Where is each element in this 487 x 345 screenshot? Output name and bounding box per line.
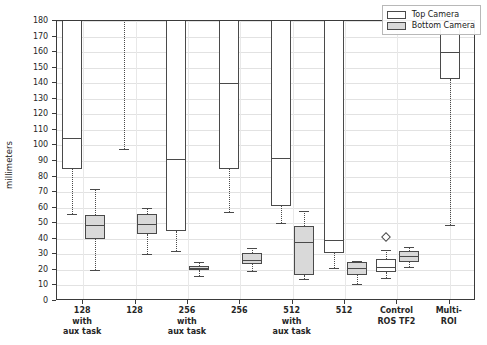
- gridline-horizontal: [57, 83, 474, 84]
- boxplot-figure: millimeters 0102030405060708090100110120…: [0, 0, 487, 345]
- legend-swatch-bottom-camera: [387, 22, 406, 30]
- y-tick-label: 140: [33, 78, 48, 87]
- gridline-horizontal: [57, 130, 474, 131]
- median-line: [137, 224, 157, 225]
- whisker-cap-upper: [90, 189, 100, 190]
- whisker-cap-lower: [90, 270, 100, 271]
- outlier-marker: [381, 232, 391, 242]
- gridline-horizontal: [57, 161, 474, 162]
- y-tick-label: 90: [38, 156, 48, 165]
- x-tick-mark: [187, 300, 188, 304]
- y-axis-label: millimeters: [4, 115, 14, 215]
- whisker-cap-lower: [224, 212, 234, 213]
- median-line: [189, 268, 209, 269]
- whisker-upper: [304, 211, 305, 227]
- x-tick-label: 128 with aux task: [63, 306, 101, 338]
- whisker-cap-lower: [194, 276, 204, 277]
- y-tick-label: 50: [38, 218, 48, 227]
- y-tick-label: 30: [38, 249, 48, 258]
- x-tick-mark: [449, 300, 450, 304]
- legend-label: Bottom Camera: [412, 21, 475, 30]
- y-tick-label: 40: [38, 233, 48, 242]
- x-tick-mark: [135, 300, 136, 304]
- median-line: [440, 52, 460, 53]
- y-tick-label: 150: [33, 62, 48, 71]
- y-axis: millimeters 0102030405060708090100110120…: [0, 0, 56, 320]
- chart-legend: Top CameraBottom Camera: [382, 5, 481, 35]
- whisker-lower: [281, 206, 282, 223]
- legend-label: Top Camera: [412, 10, 459, 19]
- whisker-cap-upper: [142, 208, 152, 209]
- whisker-cap-upper: [299, 211, 309, 212]
- gridline-horizontal: [57, 192, 474, 193]
- whisker-lower: [357, 275, 358, 284]
- gridline-horizontal: [57, 114, 474, 115]
- x-tick-label: Control ROS TF2: [377, 306, 415, 327]
- y-tick-label: 0: [43, 296, 48, 305]
- legend-swatch-top-camera: [387, 11, 406, 19]
- box-iqr: [294, 226, 314, 274]
- y-tick-label: 120: [33, 109, 48, 118]
- box-iqr: [166, 20, 186, 231]
- whisker-lower: [334, 253, 335, 268]
- y-tick-label: 80: [38, 171, 48, 180]
- box-iqr: [440, 29, 460, 79]
- y-tick-label: 100: [33, 140, 48, 149]
- y-tick-label: 110: [33, 124, 48, 133]
- whisker-lower: [147, 234, 148, 254]
- whisker-cap-lower: [171, 251, 181, 252]
- x-tick-label: Multi-ROI: [430, 306, 468, 327]
- median-line: [85, 225, 105, 226]
- gridline-horizontal: [57, 52, 474, 53]
- x-tick-label: 256 with aux task: [168, 306, 206, 338]
- median-line: [242, 260, 262, 261]
- x-tick-mark: [239, 300, 240, 304]
- x-tick-mark: [292, 300, 293, 304]
- gridline-horizontal: [57, 37, 474, 38]
- x-tick-mark: [396, 300, 397, 304]
- gridline-horizontal: [57, 270, 474, 271]
- median-line: [62, 138, 82, 139]
- whisker-cap-lower: [276, 223, 286, 224]
- box-iqr: [271, 20, 291, 206]
- y-tick-label: 60: [38, 202, 48, 211]
- box-iqr: [85, 215, 105, 238]
- whisker-upper: [95, 189, 96, 215]
- whisker-cap-lower: [404, 267, 414, 268]
- whisker-cap-lower: [352, 284, 362, 285]
- whisker-cap-upper: [404, 247, 414, 248]
- whisker-cap-upper: [194, 262, 204, 263]
- x-tick-mark: [82, 300, 83, 304]
- x-tick-mark: [344, 300, 345, 304]
- y-tick-mark: [52, 300, 56, 301]
- median-line: [294, 242, 314, 243]
- box-iqr: [62, 20, 82, 169]
- y-tick-label: 160: [33, 47, 48, 56]
- gridline-horizontal: [57, 239, 474, 240]
- median-line: [324, 240, 344, 241]
- y-tick-label: 10: [38, 280, 48, 289]
- box-iqr: [376, 259, 396, 272]
- legend-item: Top Camera: [387, 9, 475, 20]
- y-tick-label: 130: [33, 93, 48, 102]
- gridline-horizontal: [57, 68, 474, 69]
- plot-area: [56, 20, 475, 300]
- whisker-lower: [176, 231, 177, 251]
- whisker-lower: [124, 20, 125, 149]
- whisker-cap-lower: [299, 279, 309, 280]
- box-iqr: [324, 20, 344, 253]
- whisker-cap-lower: [445, 225, 455, 226]
- median-line: [219, 83, 239, 84]
- gridline-horizontal: [57, 99, 474, 100]
- x-tick-label: 256: [231, 306, 248, 317]
- whisker-lower: [450, 79, 451, 225]
- median-line: [399, 256, 419, 257]
- y-tick-label: 70: [38, 187, 48, 196]
- gridline-horizontal: [57, 285, 474, 286]
- gridline-horizontal: [57, 208, 474, 209]
- x-tick-label: 512: [336, 306, 353, 317]
- y-tick-label: 170: [33, 31, 48, 40]
- median-line: [347, 268, 367, 269]
- whisker-cap-lower: [119, 149, 129, 150]
- gridline-horizontal: [57, 223, 474, 224]
